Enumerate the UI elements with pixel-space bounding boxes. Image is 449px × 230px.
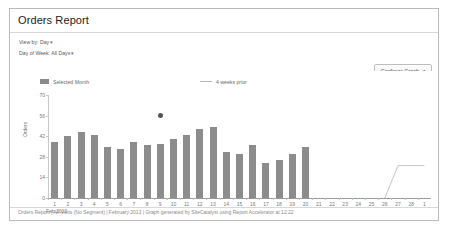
- y-axis-tick-label: 56: [39, 114, 45, 119]
- bar[interactable]: [262, 163, 269, 198]
- bar[interactable]: [117, 149, 124, 198]
- x-axis-tick-mark: [405, 198, 406, 200]
- y-axis-tick-mark: [46, 177, 48, 178]
- bar[interactable]: [104, 147, 111, 199]
- x-axis-tick-mark: [325, 198, 326, 200]
- line-swatch-icon: [200, 81, 212, 82]
- footer-divider: [10, 207, 438, 208]
- x-axis-tick-mark: [180, 198, 181, 200]
- chevron-down-icon: ▾: [50, 39, 53, 45]
- bar[interactable]: [196, 129, 203, 198]
- x-axis-tick-mark: [418, 198, 419, 200]
- data-point-marker[interactable]: [158, 113, 163, 118]
- bar[interactable]: [223, 152, 230, 198]
- x-axis-tick-mark: [378, 198, 379, 200]
- bar[interactable]: [183, 135, 190, 198]
- x-axis-tick-mark: [48, 198, 49, 200]
- x-axis-tick-mark: [233, 198, 234, 200]
- day-of-week-dropdown[interactable]: Day of Week: All Days▾: [19, 50, 74, 56]
- x-axis-tick-mark: [61, 198, 62, 200]
- x-axis-tick-mark: [114, 198, 115, 200]
- y-axis-tick-label: 42: [39, 134, 45, 139]
- y-axis-tick-mark: [46, 136, 48, 137]
- x-axis-tick-mark: [140, 198, 141, 200]
- x-axis-tick-mark: [167, 198, 168, 200]
- title-divider: [10, 32, 438, 33]
- bar[interactable]: [210, 127, 217, 198]
- y-axis-tick-mark: [46, 95, 48, 96]
- x-axis-tick-mark: [299, 198, 300, 200]
- report-footer: Orders Report | All Visits (No Segment) …: [18, 209, 294, 215]
- y-axis-tick-label: 0: [42, 196, 45, 201]
- day-of-week-label: Day of Week: All Days: [19, 50, 70, 56]
- chevron-down-icon: ▾: [71, 50, 74, 56]
- x-axis-tick-mark: [339, 198, 340, 200]
- x-axis-tick-mark: [206, 198, 207, 200]
- bar[interactable]: [64, 136, 71, 198]
- bar[interactable]: [289, 154, 296, 198]
- bar[interactable]: [130, 142, 137, 198]
- bar[interactable]: [91, 135, 98, 198]
- bar[interactable]: [144, 145, 151, 198]
- bar[interactable]: [78, 132, 85, 198]
- x-axis-tick-mark: [193, 198, 194, 200]
- x-axis-tick-mark: [273, 198, 274, 200]
- bar[interactable]: [276, 160, 283, 198]
- bar[interactable]: [302, 147, 309, 199]
- page-title: Orders Report: [18, 14, 89, 26]
- x-axis-tick-mark: [101, 198, 102, 200]
- x-axis-tick-mark: [127, 198, 128, 200]
- x-axis-tick-mark: [259, 198, 260, 200]
- view-by-dropdown[interactable]: View by: Day▾: [19, 39, 53, 45]
- x-axis-tick-mark: [391, 198, 392, 200]
- chart-plot-area: Orders Feb 2013 014284256701234567891011…: [48, 95, 431, 198]
- x-axis-tick-mark: [352, 198, 353, 200]
- x-axis-tick-mark: [365, 198, 366, 200]
- legend-item-selected-month[interactable]: Selected Month: [40, 79, 89, 85]
- y-axis-title: Orders: [22, 122, 28, 137]
- chart-legend: Selected Month 4 weeks prior: [10, 79, 438, 89]
- y-axis-tick-label: 28: [39, 155, 45, 160]
- legend-label-selected-month: Selected Month: [53, 79, 89, 85]
- y-axis-tick-mark: [46, 116, 48, 117]
- y-axis-tick-label: 70: [39, 93, 45, 98]
- x-axis-tick-mark: [154, 198, 155, 200]
- bar[interactable]: [157, 144, 164, 198]
- bar[interactable]: [249, 145, 256, 198]
- x-axis-line: [48, 198, 431, 199]
- y-axis-tick-mark: [46, 157, 48, 158]
- legend-item-prior[interactable]: 4 weeks prior: [200, 79, 247, 85]
- x-axis-tick-mark: [74, 198, 75, 200]
- x-axis-tick-mark: [286, 198, 287, 200]
- legend-label-prior: 4 weeks prior: [216, 79, 247, 85]
- bar[interactable]: [236, 154, 243, 198]
- x-axis-tick-mark: [220, 198, 221, 200]
- orders-report-card: Orders Report View by: Day▾ Day of Week:…: [9, 8, 439, 221]
- y-axis-tick-label: 14: [39, 175, 45, 180]
- view-by-label: View by: Day: [19, 39, 49, 45]
- x-axis-tick-mark: [88, 198, 89, 200]
- x-axis-tick-mark: [312, 198, 313, 200]
- bar[interactable]: [51, 142, 58, 198]
- bar-swatch-icon: [40, 79, 49, 84]
- bar[interactable]: [170, 139, 177, 198]
- x-axis-tick-mark: [246, 198, 247, 200]
